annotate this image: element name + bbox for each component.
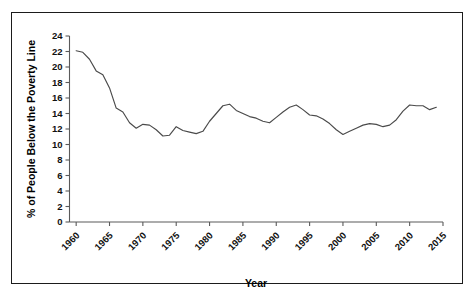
y-axis-tick-label: 8 [57, 154, 62, 165]
y-axis-title: % of People Below the Poverty Line [25, 40, 37, 218]
x-axis-tick-label: 1985 [226, 229, 249, 252]
y-axis-tick-label: 18 [52, 77, 63, 88]
y-axis-tick-label: 24 [52, 30, 63, 41]
x-axis-tick-label: 1970 [126, 230, 149, 253]
y-axis-tick-label: 20 [52, 61, 63, 72]
y-axis-tick-label: 12 [52, 123, 63, 134]
y-axis-tick-label: 6 [57, 170, 62, 181]
x-axis-tick-label: 2000 [326, 230, 349, 253]
chart-svg: 024681012141618202224 196019651970197519… [0, 0, 476, 302]
x-axis-tick-label: 1980 [192, 230, 215, 253]
x-axis-tick-label: 1975 [159, 229, 182, 252]
y-axis-tick-label: 14 [52, 108, 63, 119]
x-axis-tick-label: 2005 [359, 229, 382, 252]
y-axis-tick-group: 024681012141618202224 [52, 30, 70, 227]
y-axis-tick-label: 2 [57, 201, 62, 212]
x-axis-title: Year [245, 277, 267, 289]
y-axis-tick-label: 0 [57, 216, 62, 227]
y-axis-tick-label: 4 [57, 185, 63, 196]
x-axis-tick-label: 1965 [92, 229, 115, 252]
x-axis-tick-group: 1960196519701975198019851990199520002005… [59, 222, 449, 252]
y-axis-tick-label: 16 [52, 92, 63, 103]
x-axis-tick-label: 1995 [292, 229, 315, 252]
poverty-rate-series-line [76, 51, 436, 136]
y-axis-tick-label: 10 [52, 139, 63, 150]
poverty-rate-line-chart: 024681012141618202224 196019651970197519… [0, 0, 476, 302]
x-axis-tick-label: 1990 [259, 230, 282, 253]
x-axis-tick-label: 2015 [426, 229, 449, 252]
x-axis-tick-label: 1960 [59, 230, 82, 253]
y-axis-tick-label: 22 [52, 46, 63, 57]
x-axis-tick-label: 2010 [392, 230, 415, 253]
